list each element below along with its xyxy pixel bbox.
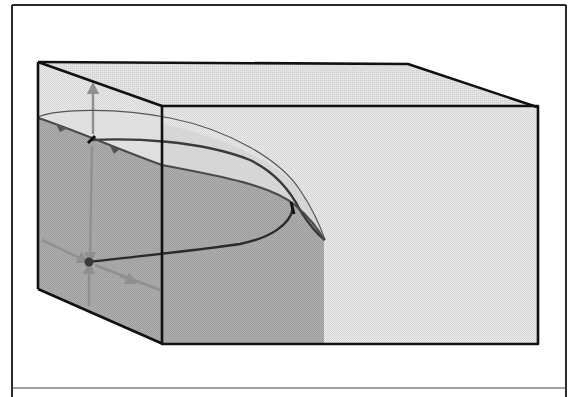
figure-frame: [0, 0, 573, 397]
fixed-points: [85, 258, 94, 267]
lower-fixed-point: [85, 258, 94, 267]
side-shaded-region: [38, 113, 163, 344]
figure-caption: [14, 388, 564, 397]
box-diagram: [0, 0, 573, 397]
